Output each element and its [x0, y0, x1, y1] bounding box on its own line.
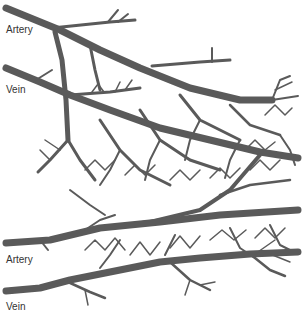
- label-vein-bottom: Vein: [6, 302, 25, 312]
- top-vein-trunk: [6, 68, 298, 158]
- vessel-network-graphic: [0, 0, 304, 318]
- label-artery-bottom: Artery: [6, 255, 33, 265]
- capillary-network-diagram: Artery Vein Artery Vein: [0, 0, 304, 318]
- label-artery-top: Artery: [6, 25, 33, 35]
- label-vein-top: Vein: [6, 85, 25, 95]
- bottom-artery-trunk: [6, 210, 298, 243]
